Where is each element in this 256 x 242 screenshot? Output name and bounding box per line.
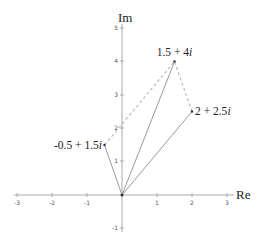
y-tick-label: 2 bbox=[114, 124, 118, 131]
label-z1-text: -0.5 + 1.5 bbox=[54, 139, 99, 151]
vector-z2 bbox=[122, 112, 192, 196]
point-label-z2: 2 + 2.5i bbox=[195, 105, 231, 117]
point-z2 bbox=[191, 110, 193, 112]
imaginary-unit: i bbox=[189, 46, 192, 58]
y-tick-label: 4 bbox=[114, 57, 118, 64]
x-tick-label: -2 bbox=[49, 199, 55, 206]
point-sum bbox=[173, 60, 175, 62]
point-origin bbox=[121, 194, 124, 197]
point-label-sum: 1.5 + 4i bbox=[157, 46, 193, 58]
point-label-z1: -0.5 + 1.5i bbox=[54, 139, 102, 151]
y-tick-label: 5 bbox=[114, 24, 118, 31]
point-z1 bbox=[103, 144, 105, 146]
x-tick-label: 3 bbox=[225, 199, 229, 206]
x-tick-label: -1 bbox=[84, 199, 90, 206]
imaginary-unit: i bbox=[227, 105, 230, 117]
imaginary-unit: i bbox=[99, 139, 102, 151]
y-axis-title: Im bbox=[118, 10, 132, 25]
x-axis-title: Re bbox=[236, 187, 251, 202]
vector-z1 bbox=[105, 145, 123, 195]
y-tick-label: 3 bbox=[114, 91, 118, 98]
y-tick-labels: -1 1 2 3 4 5 bbox=[112, 24, 118, 231]
x-tick-label: 2 bbox=[190, 199, 194, 206]
vector-sum bbox=[122, 62, 175, 196]
y-tick-label: 1 bbox=[114, 157, 118, 164]
complex-plane-diagram: -3 -2 -1 1 2 3 -1 1 2 3 4 5 Re Im -0.5 +… bbox=[0, 0, 256, 242]
x-tick-label: 1 bbox=[155, 199, 159, 206]
dashed-edge-z2-to-sum bbox=[175, 62, 193, 112]
dashed-edge-z1-to-sum bbox=[105, 62, 175, 146]
y-tick-label: -1 bbox=[112, 224, 118, 231]
x-tick-label: -3 bbox=[14, 199, 20, 206]
